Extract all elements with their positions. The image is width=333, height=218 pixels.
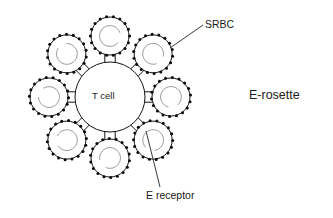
srbc-spike [89,154,92,157]
srbc-spike [126,166,129,169]
srbc-spike [50,115,53,118]
srbc-spike [67,96,70,99]
e-rosette-figure: T cell SRBC E receptor E-rosette [0,0,333,218]
srbc-spike [93,22,96,25]
srbc-spike [171,55,174,58]
srbc-spike [77,155,80,158]
srbc-5 [46,119,88,161]
srbc-spike [124,22,127,25]
srbc-spike [52,152,55,155]
srbc-spike [164,77,167,80]
srbc-spike [152,104,155,107]
srbc-spike [157,34,160,37]
srbc-spike [105,15,108,18]
srbc-membrane-0 [91,17,129,55]
srbc-spike [144,34,147,37]
srbc-spike [167,126,170,129]
srbc-spike [128,159,131,162]
srbc-spike [53,38,56,41]
srbc-spike [168,42,171,45]
srbc-spike [52,76,55,79]
srbc-spike [67,119,70,122]
srbc-spike [99,18,102,21]
srbc-2 [150,76,192,118]
srbc-spike [66,103,69,106]
srbc-spike [95,142,98,145]
srbc-spike [162,122,165,125]
srbc-spike [128,152,131,155]
srbc-spike [142,121,145,124]
srbc-spike [168,115,171,118]
srbc-spike [155,119,158,122]
srbc-label: SRBC [205,19,234,30]
srbc-spike [148,158,151,161]
srbc-spike [46,56,49,59]
srbc-spike [38,78,41,81]
e-rosette-title-label: E-rosette [249,89,300,102]
srbc-spike [96,172,99,175]
srbc-spike [89,161,92,164]
srbc-spike [49,127,52,130]
srbc-spike [137,126,140,129]
srbc-spike [53,68,56,71]
srbc-spike [171,139,174,142]
srbc-spike [153,85,156,88]
srbc-spike [82,42,85,45]
srbc-spike [92,167,95,170]
srbc-spike [66,72,69,75]
srbc-spike [48,147,51,150]
srbc-spike [186,106,189,109]
srbc-spike [90,41,93,44]
srbc-spike [70,158,73,161]
srbc-spike [165,67,168,70]
srbc-spike [33,82,36,85]
srbc-membrane-7 [48,35,86,73]
srbc-spike [93,47,96,50]
srbc-spike [99,51,102,54]
srbc-spike [46,134,49,137]
srbc-spike [140,68,143,71]
srbc-0 [89,15,131,57]
srbc-spike [135,63,138,66]
srbc-spike [59,71,62,74]
srbc-spike [125,146,128,149]
srbc-spike [112,15,115,18]
srbc-spike [177,78,180,81]
srbc-spike [81,150,84,153]
srbc-spike [48,43,51,46]
srbc-spike [32,108,35,111]
srbc-spike [63,83,66,86]
srbc-spike [166,151,169,154]
srbc-spike [105,54,108,57]
srbc-spike [46,49,49,52]
srbc-spike [101,138,104,141]
srbc-spike [150,91,153,94]
srbc-spike [108,137,111,140]
srbc-spike [183,81,186,84]
srbc-spike [132,138,135,141]
srbc-spike [151,33,154,36]
srbc-spike [29,88,32,91]
srbc-spike [29,102,32,105]
srbc-spike [78,67,81,70]
srbc-spike [85,49,88,52]
srbc-spike [85,55,88,58]
t-cell-label: T cell [92,91,115,101]
srbc-spike [115,138,118,141]
srbc-spike [118,18,121,21]
srbc-spike [153,72,156,75]
srbc-spike [132,50,135,53]
srbc-spike [64,158,67,161]
srbc-spike [43,115,46,118]
srbc-spike [89,35,92,38]
srbc-spike [72,71,75,74]
srbc-spike [162,113,165,116]
srbc-6 [28,76,70,118]
srbc-spike [170,132,173,135]
srbc-spike [158,80,161,83]
srbc-spike [28,95,31,98]
srbc-spike [128,35,131,38]
leader-line-0 [170,25,203,48]
srbc-spike [74,121,77,124]
srbc-spike [138,38,141,41]
